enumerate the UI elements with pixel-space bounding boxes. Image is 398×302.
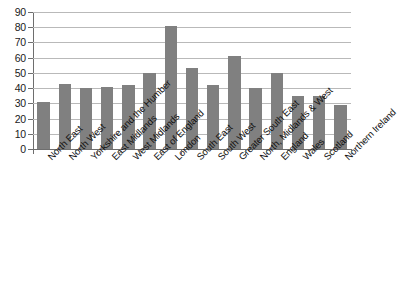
x-tick-mark — [33, 150, 34, 154]
y-tick-label: 40 — [0, 83, 26, 93]
y-tick-label: 90 — [0, 7, 26, 17]
y-tick-mark — [28, 88, 33, 89]
y-tick-label: 20 — [0, 114, 26, 124]
x-tick-mark — [309, 150, 310, 154]
x-tick-mark — [245, 150, 246, 154]
y-tick-label: 0 — [0, 144, 26, 154]
x-tick-mark — [54, 150, 55, 154]
y-tick-mark — [28, 42, 33, 43]
y-tick-mark — [28, 103, 33, 104]
y-tick-mark — [28, 58, 33, 59]
x-tick-mark — [118, 150, 119, 154]
y-tick-label: 60 — [0, 53, 26, 63]
x-tick-mark — [224, 150, 225, 154]
y-tick-mark — [28, 134, 33, 135]
x-tick-mark — [139, 150, 140, 154]
x-tick-mark — [351, 150, 352, 154]
y-axis: 0102030405060708090 — [0, 12, 26, 149]
y-tick-mark — [28, 12, 33, 13]
x-tick-mark — [287, 150, 288, 154]
y-tick-mark — [28, 73, 33, 74]
y-tick-label: 70 — [0, 37, 26, 47]
y-tick-mark — [28, 119, 33, 120]
y-tick-mark — [28, 27, 33, 28]
bar — [37, 102, 49, 149]
x-tick-mark — [203, 150, 204, 154]
x-tick-mark — [181, 150, 182, 154]
y-tick-label: 80 — [0, 22, 26, 32]
y-tick-label: 50 — [0, 68, 26, 78]
y-tick-label: 10 — [0, 129, 26, 139]
x-tick-mark — [266, 150, 267, 154]
x-tick-mark — [160, 150, 161, 154]
x-tick-mark — [97, 150, 98, 154]
y-tick-label: 30 — [0, 98, 26, 108]
x-tick-mark — [330, 150, 331, 154]
x-tick-mark — [75, 150, 76, 154]
